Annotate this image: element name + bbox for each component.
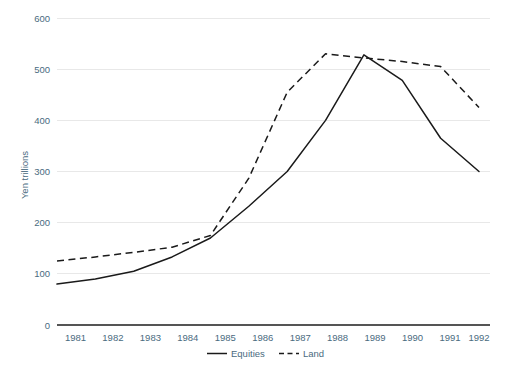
y-tick-0: 0: [45, 320, 50, 331]
y-tick-500: 500: [34, 64, 50, 75]
x-tick-1988: 1988: [327, 332, 348, 343]
x-tick-1982: 1982: [102, 332, 123, 343]
x-tick-1989: 1989: [365, 332, 386, 343]
x-tick-1981: 1981: [65, 332, 86, 343]
chart-canvas: 600 500 400 300 200 100 0 Yen trillions …: [0, 0, 505, 372]
y-tick-100: 100: [34, 268, 50, 279]
y-tick-600: 600: [34, 13, 50, 24]
y-tick-200: 200: [34, 217, 50, 228]
x-tick-1984: 1984: [177, 332, 198, 343]
x-tick-1985: 1985: [215, 332, 236, 343]
x-tick-1983: 1983: [140, 332, 161, 343]
y-tick-400: 400: [34, 115, 50, 126]
y-tick-300: 300: [34, 166, 50, 177]
y-axis-title: Yen trillions: [19, 151, 30, 199]
x-tick-1986: 1986: [252, 332, 273, 343]
x-tick-1990: 1990: [402, 332, 423, 343]
chart-background: [0, 0, 505, 372]
legend-label-land: Land: [303, 348, 324, 359]
legend-label-equities: Equities: [231, 348, 265, 359]
line-chart-figure: 600 500 400 300 200 100 0 Yen trillions …: [0, 0, 505, 372]
x-tick-1991: 1991: [439, 332, 460, 343]
x-tick-1992: 1992: [468, 332, 489, 343]
x-tick-1987: 1987: [290, 332, 311, 343]
